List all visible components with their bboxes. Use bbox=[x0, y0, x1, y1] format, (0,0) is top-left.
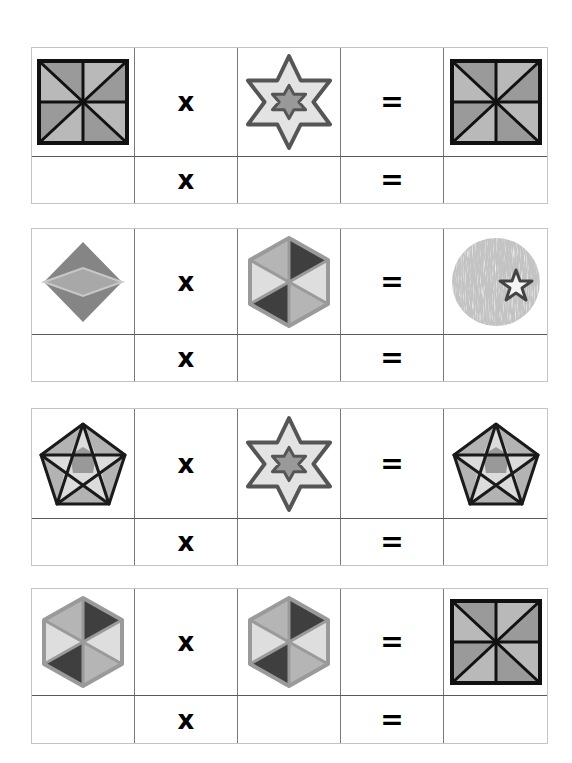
equals-sign: = bbox=[380, 528, 403, 556]
multiply-sign: x bbox=[178, 269, 195, 295]
answer-result-cell[interactable] bbox=[444, 696, 547, 743]
square-pinwheel-icon bbox=[37, 59, 129, 145]
equals-sign: = bbox=[380, 706, 403, 734]
operand-2-cell bbox=[238, 229, 341, 334]
equals-sign: = bbox=[380, 268, 403, 296]
multiply-sign: x bbox=[178, 529, 195, 555]
multiply-sign: x bbox=[178, 707, 195, 733]
equals-sign: = bbox=[380, 344, 403, 372]
answer-equals-cell: = bbox=[341, 335, 444, 381]
operand-2-cell bbox=[238, 48, 341, 156]
answer-result-cell[interactable] bbox=[444, 157, 547, 203]
operand-1-cell bbox=[32, 409, 135, 518]
multiply-sign: x bbox=[178, 451, 195, 477]
pentagon-star-icon bbox=[38, 421, 128, 507]
result-cell bbox=[444, 409, 547, 518]
equals-sign: = bbox=[380, 628, 403, 656]
puzzle-1-equation-row: x = bbox=[32, 48, 547, 157]
square-pinwheel-icon bbox=[450, 599, 542, 685]
six-point-star-icon bbox=[245, 414, 333, 514]
equals-cell: = bbox=[341, 409, 444, 518]
operand-2-cell bbox=[238, 589, 341, 695]
result-cell bbox=[444, 48, 547, 156]
result-cell bbox=[444, 229, 547, 334]
answer-operand-1-cell[interactable] bbox=[32, 335, 135, 381]
hexagon-pinwheel-icon bbox=[40, 594, 126, 690]
operand-1-cell bbox=[32, 229, 135, 334]
multiply-sign: x bbox=[178, 629, 195, 655]
operand-2-cell bbox=[238, 409, 341, 518]
equals-cell: = bbox=[341, 48, 444, 156]
multiply-sign: x bbox=[178, 167, 195, 193]
answer-equals-cell: = bbox=[341, 519, 444, 565]
puzzle-2-equation-row: x = bbox=[32, 229, 547, 335]
hexagon-pinwheel-icon bbox=[246, 234, 332, 330]
answer-operator-cell: x bbox=[135, 696, 238, 743]
operator-cell: x bbox=[135, 409, 238, 518]
answer-operand-2-cell[interactable] bbox=[238, 335, 341, 381]
result-cell bbox=[444, 589, 547, 695]
textured-circle-star-icon bbox=[450, 236, 542, 328]
equals-sign: = bbox=[380, 450, 403, 478]
answer-equals-cell: = bbox=[341, 157, 444, 203]
puzzle-2-answer-row: x = bbox=[32, 335, 547, 381]
operand-1-cell bbox=[32, 48, 135, 156]
six-point-star-icon bbox=[245, 52, 333, 152]
puzzle-2: x = x = bbox=[31, 228, 548, 382]
puzzle-3-equation-row: x = bbox=[32, 409, 547, 519]
puzzle-4-equation-row: x = bbox=[32, 589, 547, 696]
square-pinwheel-icon bbox=[450, 59, 542, 145]
answer-equals-cell: = bbox=[341, 696, 444, 743]
answer-operand-1-cell[interactable] bbox=[32, 519, 135, 565]
answer-result-cell[interactable] bbox=[444, 335, 547, 381]
operator-cell: x bbox=[135, 48, 238, 156]
answer-operand-2-cell[interactable] bbox=[238, 696, 341, 743]
operator-cell: x bbox=[135, 229, 238, 334]
puzzle-1-answer-row: x = bbox=[32, 157, 547, 203]
operand-1-cell bbox=[32, 589, 135, 695]
equals-sign: = bbox=[380, 166, 403, 194]
multiply-sign: x bbox=[178, 345, 195, 371]
pentagon-star-icon bbox=[451, 421, 541, 507]
answer-result-cell[interactable] bbox=[444, 519, 547, 565]
answer-operator-cell: x bbox=[135, 519, 238, 565]
answer-operand-1-cell[interactable] bbox=[32, 157, 135, 203]
diamond-icon bbox=[41, 239, 125, 325]
equals-cell: = bbox=[341, 229, 444, 334]
equals-sign: = bbox=[380, 88, 403, 116]
puzzle-4: x = x = bbox=[31, 588, 548, 744]
puzzle-3-answer-row: x = bbox=[32, 519, 547, 565]
answer-operand-2-cell[interactable] bbox=[238, 519, 341, 565]
answer-operator-cell: x bbox=[135, 335, 238, 381]
hexagon-pinwheel-icon bbox=[246, 594, 332, 690]
answer-operand-1-cell[interactable] bbox=[32, 696, 135, 743]
multiply-sign: x bbox=[178, 89, 195, 115]
operator-cell: x bbox=[135, 589, 238, 695]
answer-operator-cell: x bbox=[135, 157, 238, 203]
puzzle-4-answer-row: x = bbox=[32, 696, 547, 743]
equals-cell: = bbox=[341, 589, 444, 695]
puzzle-3: x = x = bbox=[31, 408, 548, 566]
puzzle-1: x = x = bbox=[31, 47, 548, 204]
answer-operand-2-cell[interactable] bbox=[238, 157, 341, 203]
